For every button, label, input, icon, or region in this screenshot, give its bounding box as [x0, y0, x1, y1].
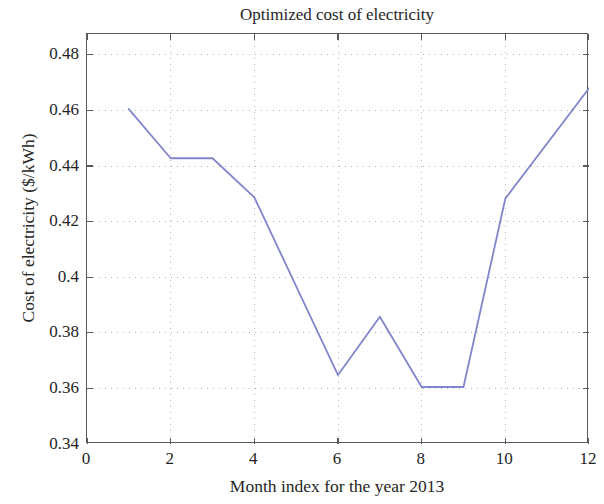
plot-canvas: [87, 34, 589, 444]
grid-lines: [87, 34, 589, 444]
y-tick-label: 0.46: [49, 101, 79, 118]
y-tick-label: 0.42: [49, 212, 79, 229]
y-tick-label: 0.44: [49, 157, 79, 174]
y-tick-label: 0.38: [49, 323, 79, 340]
x-tick-label: 2: [165, 450, 174, 467]
y-axis-title: Cost of electricity ($/kWh): [18, 63, 38, 393]
x-tick-label: 12: [580, 450, 597, 467]
y-tick-label: 0.48: [49, 45, 79, 62]
chart-figure: Optimized cost of electricity 0.360.380.…: [0, 0, 604, 504]
x-axis-title: Month index for the year 2013: [86, 476, 588, 496]
chart-title: Optimized cost of electricity: [86, 4, 588, 26]
y-tick-label: 0.34: [49, 435, 79, 452]
x-tick-label: 0: [82, 450, 91, 467]
y-tick-label: 0.36: [49, 379, 79, 396]
y-tick-label: 0.4: [58, 268, 79, 285]
x-axis-tick-labels: 024681012: [0, 450, 604, 474]
x-tick-label: 4: [249, 450, 258, 467]
plot-area: [86, 33, 588, 443]
x-tick-label: 10: [496, 450, 513, 467]
y-axis-tick-labels: 0.360.380.40.420.440.460.480.34: [0, 0, 79, 504]
data-series-line: [129, 88, 589, 387]
x-tick-label: 6: [333, 450, 342, 467]
x-tick-label: 8: [416, 450, 425, 467]
